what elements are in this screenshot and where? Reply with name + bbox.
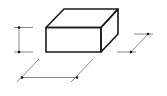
- box-dimension-diagram: [0, 0, 167, 96]
- depth-marker-bottom: [130, 51, 133, 54]
- depth-dimension: [117, 33, 153, 54]
- box: [46, 9, 118, 52]
- width-extension-right: [71, 59, 93, 82]
- depth-marker-top: [147, 33, 150, 36]
- width-marker-right: [76, 76, 79, 79]
- width-extension-left: [17, 59, 39, 82]
- height-dimension: [14, 26, 33, 53]
- width-marker-left: [21, 76, 24, 79]
- box-top-face: [46, 9, 118, 28]
- height-marker-top: [18, 26, 21, 29]
- box-front-face: [46, 28, 101, 53]
- depth-dimension-line: [131, 34, 148, 52]
- height-marker-bottom: [18, 51, 21, 54]
- box-side-face: [101, 9, 118, 52]
- width-dimension: [17, 59, 93, 82]
